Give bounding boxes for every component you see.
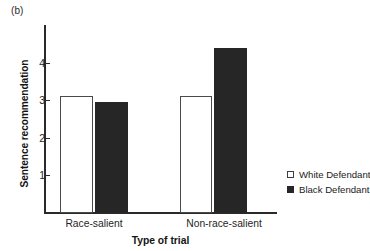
x-axis-title: Type of trial	[44, 235, 277, 246]
y-tick-label-1: 1	[29, 170, 45, 180]
legend-swatch-white-square-icon	[287, 171, 294, 178]
bar-white-race-salient	[60, 96, 93, 213]
legend-item-black-defendant: Black Defendant	[287, 183, 365, 196]
y-tick-mark-4	[45, 63, 50, 64]
y-tick-mark-3	[45, 100, 50, 101]
legend-swatch-black-square-icon	[287, 186, 294, 193]
bar-white-non-race-salient	[180, 96, 212, 213]
y-axis-line	[44, 25, 46, 213]
x-group-label-race-salient: Race-salient	[44, 218, 144, 230]
y-tick-label-2: 2	[29, 133, 45, 143]
y-axis-title: Sentence recommendation	[19, 44, 30, 204]
legend-item-white-defendant: White Defendant	[287, 168, 365, 181]
legend-label-black-defendant: Black Defendant	[299, 184, 369, 195]
x-group-label-non-race-salient: Non-race-salient	[163, 218, 285, 230]
panel-label: (b)	[11, 5, 24, 17]
y-tick-mark-2	[45, 138, 50, 139]
bar-black-non-race-salient	[214, 48, 247, 214]
y-tick-label-3: 3	[29, 95, 45, 105]
legend: White Defendant Black Defendant	[287, 168, 365, 198]
legend-label-white-defendant: White Defendant	[299, 169, 370, 180]
y-tick-mark-1	[45, 175, 50, 176]
y-tick-label-4: 4	[29, 58, 45, 68]
bar-black-race-salient	[95, 102, 128, 213]
